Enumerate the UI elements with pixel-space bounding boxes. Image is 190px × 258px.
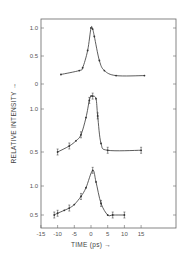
series-group [53,26,145,218]
x-tick-label: -5 [72,231,78,237]
data-point [87,50,89,52]
x-tick-label: 10 [121,231,128,237]
data-point [78,70,80,72]
curve-middle [58,96,142,152]
data-point [98,60,100,62]
y-tick-label: 1.0 [30,106,39,112]
y-tick-label: 0 [35,81,39,87]
plot-frame [41,19,176,228]
y-axes: 00.51.00.51.00.51.0 [30,25,176,218]
data-point [92,28,94,30]
data-point [73,204,75,206]
series-middle [57,93,143,155]
data-point [85,187,87,189]
data-point [100,143,102,145]
data-point [90,27,92,29]
x-tick-label: 15 [138,231,145,237]
y-tick-label: 0.5 [30,53,39,59]
data-point [75,140,77,142]
series-top [60,26,145,76]
x-axis: -15-10-5051015 [37,225,146,237]
x-axis-title: TIME (ps) → [71,241,111,249]
y-tick-label: 1.0 [30,183,39,189]
data-point [82,67,84,69]
data-point [103,70,105,72]
curve-top [61,26,145,76]
data-point [93,36,95,38]
data-point [144,75,146,77]
y-tick-label: 0.5 [30,212,39,218]
x-tick-label: -15 [37,231,46,237]
data-point [115,75,117,77]
x-tick-label: 5 [106,231,110,237]
data-point [95,98,97,100]
data-point [95,181,97,183]
x-tick-label: 0 [89,231,93,237]
data-point [60,74,62,76]
data-point [107,214,109,216]
data-point [90,95,92,97]
y-tick-label: 1.0 [30,25,39,31]
data-point [63,209,65,211]
y-tick-label: 0.5 [30,149,39,155]
series-bottom [53,167,125,218]
curve-bottom [54,170,124,216]
y-axis-title: RELATIVE INTENSITY → [10,83,17,164]
x-tick-label: -10 [53,231,62,237]
data-point [85,117,87,119]
chart: -15-10-5051015 00.51.00.51.00.51.0 TIME … [0,0,190,258]
